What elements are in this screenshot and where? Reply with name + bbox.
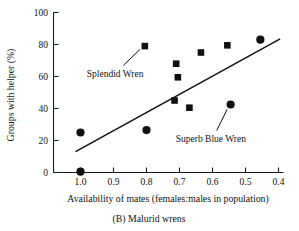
data-point-square (198, 49, 205, 56)
data-point-circle (227, 100, 235, 108)
x-tick-label-0-5: 0.5 (240, 177, 252, 187)
annotation-superb-blue-wren: Superb Blue Wren (176, 134, 246, 144)
superb-blue-wren-leader-line (217, 109, 227, 130)
data-point-square (186, 104, 193, 111)
y-tick-label-60: 60 (39, 72, 49, 82)
x-tick-label-0-4: 0.4 (273, 177, 285, 187)
data-markers (76, 36, 264, 176)
data-point-square (224, 42, 231, 49)
x-tick-label-0-9: 0.9 (108, 177, 120, 187)
data-point-square (142, 43, 149, 50)
y-tick-label-0: 0 (43, 168, 48, 178)
y-axis-label: Groups with helper (%) (5, 49, 17, 142)
data-point-circle (76, 128, 84, 136)
y-axis-ticks (54, 13, 59, 173)
x-tick-label-0-8: 0.8 (141, 177, 153, 187)
x-tick-label-1-0: 1.0 (75, 177, 87, 187)
data-point-circle (256, 36, 264, 44)
y-tick-label-20: 20 (39, 136, 49, 146)
data-point-circle (142, 126, 150, 134)
scatter-plot: Groups with helper (%) 100 80 60 40 20 0 (0, 0, 299, 231)
data-point-square (171, 97, 178, 104)
x-axis-label: Availability of mates (females:males in … (67, 193, 268, 205)
data-point-square (175, 74, 182, 81)
x-axis-ticks (81, 168, 279, 173)
figure-caption: (B) Malurid wrens (113, 213, 186, 225)
data-point-square (173, 60, 180, 67)
y-tick-label-80: 80 (39, 40, 49, 50)
figure-panel: Groups with helper (%) 100 80 60 40 20 0 (0, 0, 299, 231)
data-point-circle (76, 168, 84, 176)
y-tick-label-100: 100 (34, 8, 49, 18)
annotation-splendid-wren: Splendid Wren (87, 69, 144, 79)
x-tick-label-0-6: 0.6 (207, 177, 219, 187)
y-tick-label-40: 40 (39, 104, 49, 114)
x-tick-label-0-7: 0.7 (174, 177, 186, 187)
splendid-wren-leader-line (123, 49, 140, 65)
